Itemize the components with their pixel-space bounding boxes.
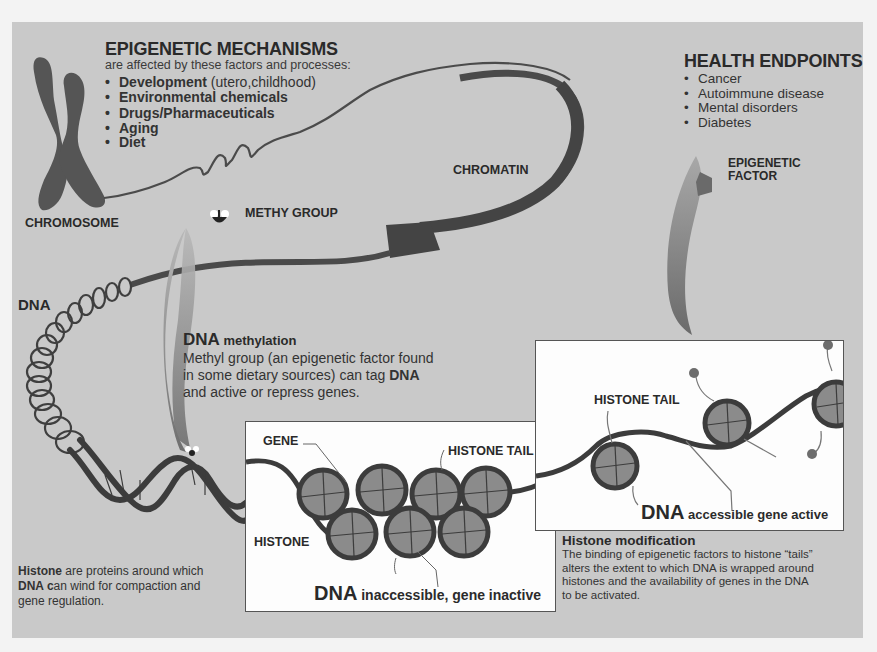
chromatin-label: CHROMATIN — [453, 163, 528, 177]
histone-tail-label-left: HISTONE TAIL — [448, 444, 534, 458]
factor-list: Development (utero,childhood) Environmen… — [105, 75, 351, 150]
chromosome-label: CHROMOSOME — [25, 216, 119, 230]
dna-label: DNA — [18, 296, 51, 313]
factor-item: Drugs/Pharmaceuticals — [105, 106, 351, 121]
histone-modification-title: Histone modification — [562, 533, 814, 548]
double-helix — [70, 440, 258, 521]
factor-item: Aging — [105, 121, 351, 136]
histone-label: HISTONE — [254, 535, 309, 549]
endpoint-item: Diabetes — [684, 116, 862, 131]
epigenetic-mechanisms-subtitle: are affected by these factors and proces… — [105, 58, 351, 72]
histone-note: Histone are proteins around which DNA ca… — [18, 564, 203, 609]
methyl-tag-icon — [185, 446, 199, 456]
factor-item: Environmental chemicals — [105, 90, 351, 105]
inactive-caption: DNA inaccessible, gene inactive — [314, 582, 541, 605]
epigenetic-factor-label: EPIGENETIC FACTOR — [728, 157, 801, 183]
health-endpoints-block: HEALTH ENDPOINTS Cancer Autoimmune disea… — [684, 51, 862, 130]
dna-methylation-heading: DNA methylation — [183, 330, 434, 350]
histone-tail-label-right: HISTONE TAIL — [594, 393, 680, 407]
endpoint-item: Cancer — [684, 72, 862, 87]
active-caption: DNA accessible gene active — [641, 501, 828, 524]
endpoint-item: Autoimmune disease — [684, 87, 862, 102]
health-endpoints-list: Cancer Autoimmune disease Mental disorde… — [684, 72, 862, 130]
dna-methylation-block: DNA methylation Methyl group (an epigene… — [183, 330, 434, 401]
gene-label: GENE — [263, 434, 298, 448]
endpoint-item: Mental disorders — [684, 101, 862, 116]
factor-item: Diet — [105, 135, 351, 150]
methy-group-label: METHY GROUP — [245, 206, 338, 220]
histone-cluster — [299, 466, 510, 558]
epigenetic-mechanisms-title: EPIGENETIC MECHANISMS — [105, 39, 351, 60]
inactive-chromatin-box: GENE HISTONE TAIL HISTONE DNA inaccessib… — [245, 421, 556, 612]
methyl-group-icon — [210, 210, 229, 223]
epigenetic-mechanisms-block: EPIGENETIC MECHANISMS are affected by th… — [105, 39, 351, 150]
chromosome-icon — [33, 57, 105, 210]
factor-item: Development (utero,childhood) — [105, 75, 351, 90]
active-chromatin-box: HISTONE TAIL DNA accessible gene active — [535, 340, 844, 531]
epigenetic-factor-dots — [689, 341, 833, 459]
histone-modification-block: Histone modification The binding of epig… — [562, 533, 814, 602]
health-endpoints-title: HEALTH ENDPOINTS — [684, 51, 862, 72]
